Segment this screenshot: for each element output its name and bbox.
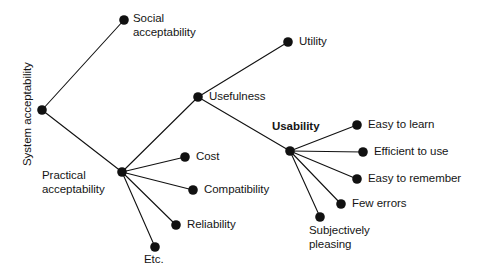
edge-usability-to-easy_to_remember bbox=[290, 151, 357, 179]
node-label-usefulness: Usefulness bbox=[209, 90, 265, 104]
edge-usability-to-efficient_to_use bbox=[290, 151, 363, 152]
node-label-practical_acceptability: Practicalacceptability bbox=[42, 169, 105, 196]
edge-practical_acceptability-to-reliability bbox=[122, 172, 176, 225]
node-label-social_acceptability: Socialacceptability bbox=[133, 12, 196, 39]
node-label-line: Practical bbox=[42, 169, 105, 183]
node-label-line: pleasing bbox=[309, 238, 370, 252]
node-dot-practical_acceptability[interactable] bbox=[117, 167, 127, 177]
edge-usability-to-subjectively_pleasing bbox=[290, 151, 320, 217]
edge-usability-to-few_errors bbox=[290, 151, 341, 204]
node-dot-efficient_to_use[interactable] bbox=[358, 147, 368, 157]
node-label-line: Reliability bbox=[187, 218, 236, 232]
node-label-system_acceptability: System acceptability bbox=[21, 62, 35, 166]
node-label-line: Subjectively bbox=[309, 224, 370, 238]
node-dot-reliability[interactable] bbox=[171, 220, 181, 230]
node-dot-compatibility[interactable] bbox=[188, 185, 198, 195]
node-label-line: Compatibility bbox=[204, 183, 269, 197]
node-label-easy_to_learn: Easy to learn bbox=[368, 118, 434, 132]
node-label-line: Easy to remember bbox=[368, 172, 461, 186]
node-label-easy_to_remember: Easy to remember bbox=[368, 172, 461, 186]
node-label-line: acceptability bbox=[42, 183, 105, 197]
node-label-line: System acceptability bbox=[21, 62, 35, 166]
node-label-reliability: Reliability bbox=[187, 218, 236, 232]
diagram-canvas: System acceptabilitySocialacceptabilityP… bbox=[0, 0, 485, 270]
node-label-line: Etc. bbox=[144, 253, 164, 267]
node-label-etc: Etc. bbox=[144, 253, 164, 267]
node-label-few_errors: Few errors bbox=[352, 197, 406, 211]
node-label-subjectively_pleasing: Subjectivelypleasing bbox=[309, 224, 370, 251]
node-dot-etc[interactable] bbox=[150, 242, 160, 252]
edge-system_acceptability-to-social_acceptability bbox=[42, 20, 124, 110]
node-dot-utility[interactable] bbox=[283, 37, 293, 47]
edge-usefulness-to-utility bbox=[198, 42, 288, 97]
diagram-svg bbox=[0, 0, 485, 270]
node-dot-few_errors[interactable] bbox=[336, 199, 346, 209]
node-label-line: Few errors bbox=[352, 197, 406, 211]
node-label-efficient_to_use: Efficient to use bbox=[374, 145, 448, 159]
node-dot-subjectively_pleasing[interactable] bbox=[315, 212, 325, 222]
edge-practical_acceptability-to-compatibility bbox=[122, 172, 193, 190]
node-label-cost: Cost bbox=[196, 150, 219, 164]
edge-practical_acceptability-to-cost bbox=[122, 157, 185, 172]
edge-practical_acceptability-to-etc bbox=[122, 172, 155, 247]
node-label-line: Efficient to use bbox=[374, 145, 448, 159]
edges-layer bbox=[42, 20, 363, 247]
node-dot-cost[interactable] bbox=[180, 152, 190, 162]
node-label-line: Cost bbox=[196, 150, 219, 164]
node-dot-social_acceptability[interactable] bbox=[119, 15, 129, 25]
node-label-usability: Usability bbox=[272, 120, 319, 134]
node-dot-easy_to_learn[interactable] bbox=[352, 120, 362, 130]
node-label-line: Utility bbox=[299, 35, 327, 49]
node-label-line: acceptability bbox=[133, 26, 196, 40]
nodes-layer bbox=[37, 15, 368, 252]
node-label-line: Usability bbox=[272, 120, 319, 134]
node-dot-easy_to_remember[interactable] bbox=[352, 174, 362, 184]
node-dot-system_acceptability[interactable] bbox=[37, 105, 47, 115]
node-dot-usability[interactable] bbox=[285, 146, 295, 156]
node-label-utility: Utility bbox=[299, 35, 327, 49]
node-label-line: Usefulness bbox=[209, 90, 265, 104]
node-label-compatibility: Compatibility bbox=[204, 183, 269, 197]
node-label-line: Easy to learn bbox=[368, 118, 434, 132]
node-label-line: Social bbox=[133, 12, 196, 26]
node-dot-usefulness[interactable] bbox=[193, 92, 203, 102]
edge-system_acceptability-to-practical_acceptability bbox=[42, 110, 122, 172]
